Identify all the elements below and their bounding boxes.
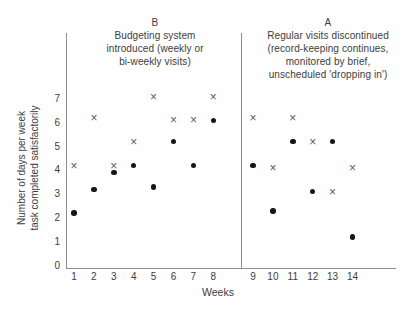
y-tick-label-5: 5 <box>40 141 60 152</box>
x-axis-line <box>66 268 396 269</box>
data-point-x-week-14: × <box>346 162 360 174</box>
data-point-dot-week-6 <box>171 139 177 145</box>
data-point-x-week-12: × <box>306 136 320 148</box>
data-point-dot-week-8 <box>211 118 217 124</box>
data-point-x-week-10: × <box>266 162 280 174</box>
data-point-dot-week-12 <box>310 189 316 195</box>
x-tick-label-5: 5 <box>144 271 164 282</box>
data-point-x-week-8: × <box>206 91 220 103</box>
y-axis-title: Number of days per week task completed s… <box>15 88 41 248</box>
x-axis-title: Weeks <box>178 286 258 298</box>
chart-canvas: Number of days per week task completed s… <box>0 0 414 310</box>
y-tick-label-4: 4 <box>40 164 60 175</box>
phase-a-description: Regular visits discontinued (record-keep… <box>246 29 410 81</box>
y-tick-label-7: 7 <box>40 93 60 104</box>
data-point-x-week-2: × <box>87 112 101 124</box>
phase-b-description: Budgeting system introduced (weekly or b… <box>75 29 235 68</box>
x-tick-label-4: 4 <box>124 271 144 282</box>
x-tick-label-12: 12 <box>303 271 323 282</box>
data-point-x-week-5: × <box>147 91 161 103</box>
data-point-x-week-9: × <box>246 112 260 124</box>
data-point-dot-week-4 <box>131 163 137 169</box>
phase-a-label: A <box>246 16 410 29</box>
data-point-x-week-11: × <box>286 112 300 124</box>
x-tick-label-14: 14 <box>343 271 363 282</box>
data-point-x-week-4: × <box>127 136 141 148</box>
y-tick-label-0: 0 <box>40 260 60 271</box>
data-point-dot-week-13 <box>330 139 336 145</box>
y-tick-label-6: 6 <box>40 117 60 128</box>
x-tick-label-6: 6 <box>164 271 184 282</box>
x-tick-label-13: 13 <box>323 271 343 282</box>
data-point-x-week-1: × <box>67 160 81 172</box>
data-point-x-week-6: × <box>167 114 181 126</box>
y-tick-label-1: 1 <box>40 236 60 247</box>
x-tick-label-9: 9 <box>243 271 263 282</box>
x-tick-label-7: 7 <box>183 271 203 282</box>
y-tick-label-2: 2 <box>40 212 60 223</box>
x-tick-label-3: 3 <box>104 271 124 282</box>
y-tick-label-3: 3 <box>40 188 60 199</box>
data-point-dot-week-7 <box>191 163 197 169</box>
x-tick-label-10: 10 <box>263 271 283 282</box>
data-point-dot-week-2 <box>91 187 97 193</box>
x-tick-label-1: 1 <box>64 271 84 282</box>
x-tick-label-2: 2 <box>84 271 104 282</box>
data-point-dot-week-3 <box>111 170 117 176</box>
data-point-x-week-7: × <box>186 114 200 126</box>
data-point-dot-week-9 <box>250 163 256 169</box>
phase-b-header: B Budgeting system introduced (weekly or… <box>75 16 235 68</box>
phase-a-header: A Regular visits discontinued (record-ke… <box>246 16 410 81</box>
x-tick-label-8: 8 <box>203 271 223 282</box>
y-axis-line <box>66 33 67 269</box>
data-point-dot-week-14 <box>350 234 356 240</box>
phase-divider-line <box>241 33 242 269</box>
x-tick-label-11: 11 <box>283 271 303 282</box>
data-point-dot-week-5 <box>151 184 157 190</box>
data-point-x-week-13: × <box>326 186 340 198</box>
data-point-dot-week-1 <box>71 210 77 216</box>
phase-b-label: B <box>75 16 235 29</box>
data-point-dot-week-11 <box>290 139 296 145</box>
data-point-dot-week-10 <box>270 208 276 214</box>
